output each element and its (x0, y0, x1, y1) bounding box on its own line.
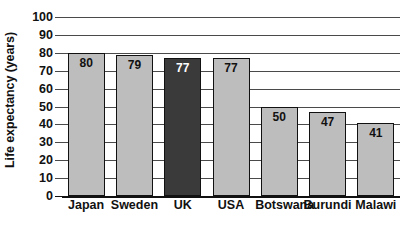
bar-uk[interactable]: 77 (164, 58, 201, 196)
y-tick-label-40: 40 (20, 118, 53, 131)
y-tickmark-20 (55, 160, 62, 161)
y-tick-label-20: 20 (20, 154, 53, 167)
bar-value-label-uk: 77 (176, 62, 189, 74)
x-tick-label-malawi: Malawi (352, 199, 400, 213)
bar-japan[interactable]: 80 (68, 53, 105, 196)
x-tick-label-botswana: Botswana (255, 199, 303, 213)
x-tick-label-usa: USA (207, 199, 255, 213)
y-axis-title: Life expectancy (years) (0, 0, 20, 200)
y-tick-label-0: 0 (20, 190, 53, 203)
bar-botswana[interactable]: 50 (261, 107, 298, 197)
y-tickmark-60 (55, 89, 62, 90)
bar-value-label-japan: 80 (79, 57, 92, 69)
y-tickmark-40 (55, 124, 62, 125)
y-tick-label-70: 70 (20, 64, 53, 77)
bar-usa[interactable]: 77 (213, 58, 250, 196)
y-tickmark-70 (55, 71, 62, 72)
y-axis-title-label: Life expectancy (years) (3, 32, 17, 168)
y-tickmark-50 (55, 107, 62, 108)
y-tick-label-100: 100 (20, 11, 53, 24)
bars-group: 80797777504741 (62, 17, 400, 196)
bar-value-label-usa: 77 (224, 62, 237, 74)
x-axis-tick-labels: JapanSwedenUKUSABotswanaBurundiMalawi (62, 199, 400, 223)
x-tick-label-sweden: Sweden (110, 199, 158, 213)
x-tick-label-uk: UK (159, 199, 207, 213)
bar-value-label-botswana: 50 (273, 111, 286, 123)
y-tickmark-90 (55, 35, 62, 36)
bar-burundi[interactable]: 47 (309, 112, 346, 196)
bar-malawi[interactable]: 41 (357, 123, 394, 196)
bar-value-label-burundi: 47 (321, 116, 334, 128)
bar-value-label-malawi: 41 (369, 127, 382, 139)
y-tick-label-80: 80 (20, 47, 53, 60)
bar-value-label-sweden: 79 (128, 59, 141, 71)
y-tickmark-30 (55, 142, 62, 143)
bar-chart: Life expectancy (years) 0102030405060708… (0, 0, 409, 228)
y-axis-tick-labels: 0102030405060708090100 (20, 0, 53, 228)
y-tick-label-10: 10 (20, 172, 53, 185)
x-tick-label-burundi: Burundi (303, 199, 351, 213)
y-tick-label-50: 50 (20, 100, 53, 113)
y-tick-label-90: 90 (20, 29, 53, 42)
y-tickmark-10 (55, 178, 62, 179)
y-tick-label-60: 60 (20, 82, 53, 95)
bar-sweden[interactable]: 79 (116, 55, 153, 196)
plot-area: 80797777504741 (62, 17, 400, 196)
y-tickmark-80 (55, 53, 62, 54)
y-tickmark-0 (55, 196, 62, 197)
x-tick-label-japan: Japan (62, 199, 110, 213)
y-tick-label-30: 30 (20, 136, 53, 149)
y-tickmark-100 (55, 17, 62, 18)
